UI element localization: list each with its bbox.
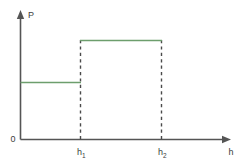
origin-label: 0 [10, 134, 15, 144]
y-axis-arrow-icon [17, 10, 24, 19]
step-function-chart: P h 0 h1 h2 [0, 0, 247, 164]
x-tick-label-h1-sub: 1 [82, 152, 86, 159]
y-axis-label: P [28, 10, 34, 20]
x-tick-label-h1: h1 [77, 147, 86, 159]
x-tick-label-h2-sub: 2 [163, 152, 167, 159]
x-axis-label: h [228, 147, 233, 157]
chart-canvas: P h 0 h1 h2 [0, 0, 247, 164]
x-axis-arrow-icon [222, 136, 231, 143]
x-tick-label-h2: h2 [158, 147, 167, 159]
